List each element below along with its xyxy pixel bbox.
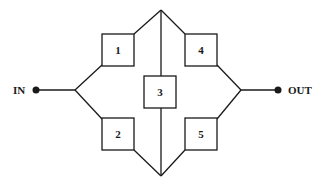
block-2-label: 2 xyxy=(115,128,121,140)
input-label: IN xyxy=(13,84,25,96)
bridge-network-diagram: 1 2 3 4 5 IN OUT xyxy=(0,0,324,186)
diagram-svg: 1 2 3 4 5 IN OUT xyxy=(0,0,324,186)
block-5-label: 5 xyxy=(198,128,204,140)
wire-in-to-1 xyxy=(75,65,102,90)
wire-4-to-out xyxy=(217,65,241,90)
wire-in-to-2 xyxy=(75,90,102,119)
wire-bottom-to-5 xyxy=(161,150,185,176)
block-4-label: 4 xyxy=(198,44,204,56)
wire-1-to-top xyxy=(134,10,161,34)
output-terminal-dot xyxy=(275,87,282,94)
output-label: OUT xyxy=(288,84,313,96)
wire-top-to-4 xyxy=(161,10,185,34)
block-1-label: 1 xyxy=(115,44,121,56)
wire-2-to-bottom xyxy=(134,150,161,176)
block-3-label: 3 xyxy=(157,86,163,98)
wire-5-to-out xyxy=(217,90,241,119)
